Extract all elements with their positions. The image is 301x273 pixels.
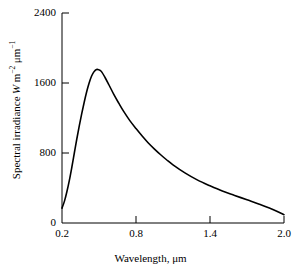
x-tick-label-0.8: 0.8 bbox=[120, 228, 152, 239]
x-axis-title-text: Wavelength, μm bbox=[114, 252, 186, 264]
y-tick-label-2400: 2400 bbox=[22, 7, 56, 18]
x-tick-marks bbox=[136, 216, 284, 223]
y-tick-label-1600: 1600 bbox=[22, 77, 56, 88]
y-axis-unit-micron-exponent: −1 bbox=[8, 41, 17, 49]
y-axis-title: Spectral irradianceWm−2μm−1 bbox=[10, 10, 22, 210]
spectral-irradiance-curve bbox=[62, 69, 284, 214]
y-tick-label-800: 800 bbox=[22, 147, 56, 158]
x-tick-label-2.0: 2.0 bbox=[268, 228, 300, 239]
y-axis-title-text: Spectral irradiance bbox=[10, 96, 22, 179]
chart-figure: 2400 1600 800 0 0.2 0.8 1.4 2.0 Waveleng… bbox=[0, 0, 301, 273]
y-axis-unit-micron: μm bbox=[10, 49, 22, 63]
y-axis-unit-symbol: W bbox=[10, 85, 22, 94]
y-tick-marks bbox=[62, 13, 69, 153]
y-tick-label-0: 0 bbox=[22, 217, 56, 228]
y-axis-unit-meter: m bbox=[10, 74, 22, 83]
y-axis-unit-meter-exponent: −2 bbox=[8, 66, 17, 74]
x-tick-label-0.2: 0.2 bbox=[46, 228, 78, 239]
x-axis-title: Wavelength, μm bbox=[0, 252, 301, 264]
x-tick-label-1.4: 1.4 bbox=[194, 228, 226, 239]
